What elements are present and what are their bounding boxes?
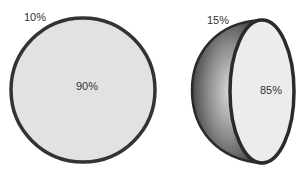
hemisphere-inner-label: 85% <box>260 84 282 96</box>
hemisphere-diagram: 15% 85% <box>192 14 294 163</box>
circle-inner-label: 90% <box>76 80 98 92</box>
flat-circle-diagram: 10% 90% <box>11 11 155 162</box>
circle-outer-label: 10% <box>24 11 46 23</box>
diagram-canvas: 10% 90% 15% 85% <box>0 0 308 175</box>
hemisphere-outer-label: 15% <box>207 14 229 26</box>
